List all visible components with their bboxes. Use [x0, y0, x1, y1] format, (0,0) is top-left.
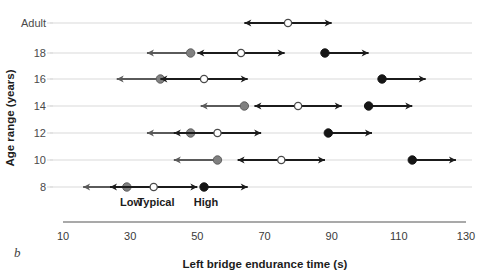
x-axis-title: Left bridge endurance time (s): [183, 258, 348, 270]
x-tick-label-10: 10: [57, 230, 69, 242]
datapoint-high-14: [364, 102, 372, 110]
x-tick-label-50: 50: [191, 230, 203, 242]
chart-container: 1030507090110130 Adult18161412108 LowTyp…: [0, 0, 483, 275]
datapoint-typical-14: [294, 102, 301, 109]
data-series-group: [83, 19, 456, 191]
endurance-chart-svg: 1030507090110130 Adult18161412108 LowTyp…: [0, 0, 483, 275]
y-tick-label-14: 14: [34, 100, 46, 112]
x-tick-label-30: 30: [124, 230, 136, 242]
datapoint-low-18: [186, 49, 194, 57]
datapoint-high-18: [321, 49, 329, 57]
y-tick-label-8: 8: [40, 181, 46, 193]
datapoint-typical-16: [200, 75, 207, 82]
x-tick-label-110: 110: [390, 230, 408, 242]
datapoint-typical-8: [150, 183, 157, 190]
legend-label-typical: Typical: [137, 196, 174, 208]
datapoint-low-10: [213, 156, 221, 164]
y-axis-labels-group: Adult18161412108: [21, 17, 53, 193]
panel-letter: b: [14, 245, 21, 260]
y-tick-label-12: 12: [34, 127, 46, 139]
y-tick-label-16: 16: [34, 73, 46, 85]
datapoint-high-8: [200, 183, 208, 191]
y-tick-label-Adult: Adult: [21, 17, 46, 29]
x-tick-label-90: 90: [326, 230, 338, 242]
y-tick-label-18: 18: [34, 47, 46, 59]
datapoint-typical-10: [278, 156, 285, 163]
datapoint-low-14: [240, 102, 248, 110]
x-axis-group: 1030507090110130: [57, 222, 475, 242]
datapoint-typical-18: [237, 49, 244, 56]
x-tick-label-70: 70: [258, 230, 270, 242]
datapoint-high-16: [378, 75, 386, 83]
datapoint-high-10: [408, 156, 416, 164]
datapoint-high-12: [324, 129, 332, 137]
legend-group: LowTypicalHigh: [120, 196, 218, 208]
datapoint-typical-Adult: [284, 19, 291, 26]
y-tick-label-10: 10: [34, 154, 46, 166]
y-axis-title: Age range (years): [4, 69, 16, 166]
datapoint-typical-12: [214, 129, 221, 136]
legend-label-high: High: [194, 196, 219, 208]
x-tick-label-130: 130: [457, 230, 475, 242]
